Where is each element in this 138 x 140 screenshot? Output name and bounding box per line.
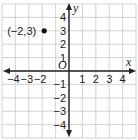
x-tick-label: 1: [79, 73, 85, 85]
y-tick-label: −1: [53, 78, 66, 90]
x-tick-label: 4: [120, 73, 126, 85]
y-tick-label: 2: [60, 38, 66, 50]
y-tick-label: −4: [53, 119, 66, 131]
x-tick-label: −4: [7, 73, 20, 85]
y-tick-label: 3: [60, 25, 66, 37]
origin-label: O: [58, 58, 67, 72]
y-tick-label: 4: [60, 11, 66, 23]
x-tick-label: −3: [21, 73, 34, 85]
x-tick-label: 3: [106, 73, 112, 85]
data-point-label: (−2,3): [7, 25, 36, 37]
y-axis-label: y: [72, 1, 79, 15]
y-tick-label: −3: [53, 105, 66, 117]
x-axis-label: x: [125, 55, 132, 69]
data-point: [42, 28, 47, 33]
x-tick-label: −2: [34, 73, 47, 85]
coordinate-plane: −4−3−212344321−1−2−3−4 x y O (−2,3): [0, 0, 138, 140]
y-axis-down-arrow-icon: [66, 130, 72, 137]
axes: [3, 3, 136, 137]
x-tick-label: 2: [93, 73, 99, 85]
y-tick-label: −2: [53, 92, 66, 104]
